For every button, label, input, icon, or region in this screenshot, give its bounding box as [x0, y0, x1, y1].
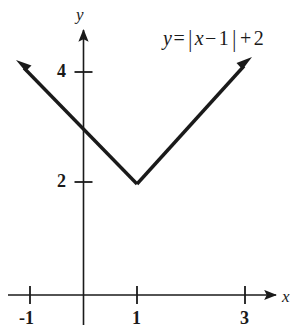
y-axis-label: y [76, 6, 84, 23]
equation-plus: + [239, 27, 253, 49]
curve-left-branch [24, 68, 137, 184]
curve-right-branch [137, 66, 244, 184]
equation-minus: − [204, 27, 218, 49]
equation-outer-constant: 2 [253, 27, 266, 49]
graph-canvas [0, 0, 294, 333]
x-tick-label-3: 3 [240, 309, 249, 327]
absolute-value-graph-figure: y x 4 2 -1 1 3 y=|x−1|+2 [0, 0, 294, 333]
equation-inner-constant: 1 [218, 27, 231, 49]
x-tick-label-1: 1 [132, 309, 141, 327]
equation-variable: x [195, 27, 204, 49]
y-tick-label-2: 2 [57, 172, 66, 190]
equation-open-bar: | [186, 26, 195, 51]
x-axis-label: x [282, 288, 290, 305]
equation-lhs: y [163, 27, 172, 49]
equation-close-bar: | [230, 26, 239, 51]
equation-equals: = [172, 27, 186, 49]
equation-annotation: y=|x−1|+2 [163, 28, 265, 48]
y-tick-label-4: 4 [57, 62, 66, 80]
x-tick-label-neg1: -1 [19, 309, 34, 327]
